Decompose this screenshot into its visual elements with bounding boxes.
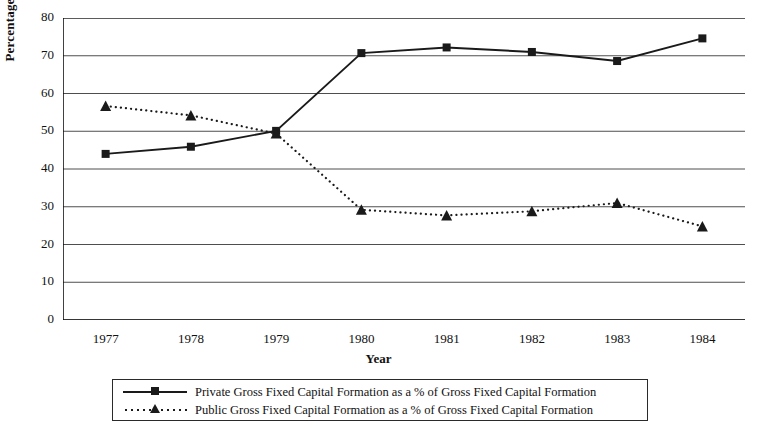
legend-label-private: Private Gross Fixed Capital Formation as… xyxy=(191,385,596,400)
y-tick-label: 40 xyxy=(18,163,54,173)
legend-key-dotted-triangle-icon xyxy=(119,403,191,417)
x-tick-label: 1980 xyxy=(331,331,391,347)
y-tick-label: 20 xyxy=(18,239,54,249)
data-point-marker xyxy=(697,221,708,232)
y-tick-label: 70 xyxy=(18,50,54,60)
y-tick-label: 50 xyxy=(18,125,54,135)
plot-area xyxy=(63,18,745,320)
y-tick-label: 0 xyxy=(18,314,54,324)
x-tick-label: 1984 xyxy=(672,331,732,347)
legend-label-public: Public Gross Fixed Capital Formation as … xyxy=(191,403,593,418)
data-point-marker xyxy=(100,100,111,111)
x-tick-label: 1977 xyxy=(76,331,136,347)
chart-container: Percentage 01020304050607080 19771978197… xyxy=(0,0,757,428)
legend-item-private: Private Gross Fixed Capital Formation as… xyxy=(119,383,641,401)
data-point-marker xyxy=(613,57,621,65)
x-tick-label: 1978 xyxy=(161,331,221,347)
data-point-marker xyxy=(698,34,706,42)
y-tick-label: 80 xyxy=(18,12,54,22)
x-tick-label: 1981 xyxy=(417,331,477,347)
y-tick-label: 10 xyxy=(18,276,54,286)
x-axis-label: Year xyxy=(0,351,757,367)
y-tick-label: 30 xyxy=(18,201,54,211)
data-point-marker xyxy=(357,49,365,57)
y-tick-label: 60 xyxy=(18,88,54,98)
data-point-marker xyxy=(528,48,536,56)
legend-item-public: Public Gross Fixed Capital Formation as … xyxy=(119,401,641,419)
x-tick-label: 1979 xyxy=(246,331,306,347)
data-point-marker xyxy=(187,143,195,151)
legend-key-solid-square-icon xyxy=(119,385,191,399)
data-point-marker xyxy=(443,43,451,51)
series-line-public xyxy=(106,106,703,226)
y-axis-label: Percentage xyxy=(2,0,18,100)
data-point-marker xyxy=(102,150,110,158)
chart-legend: Private Gross Fixed Capital Formation as… xyxy=(112,379,648,421)
x-tick-label: 1982 xyxy=(502,331,562,347)
x-tick-label: 1983 xyxy=(587,331,647,347)
